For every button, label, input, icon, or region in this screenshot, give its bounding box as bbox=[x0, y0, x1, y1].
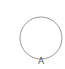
circle-shape bbox=[20, 17, 62, 59]
circle-label: A bbox=[0, 56, 65, 66]
